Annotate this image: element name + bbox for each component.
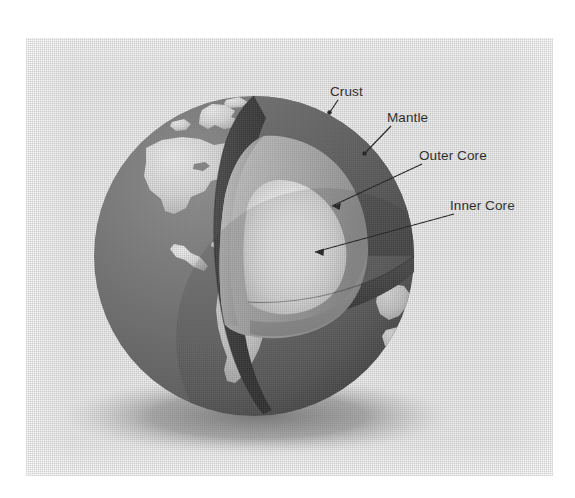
callout-label-mantle: Mantle (387, 111, 428, 125)
callout-label-outer-core: Outer Core (419, 149, 487, 163)
leader-mantle (362, 126, 391, 156)
callout-label-crust: Crust (330, 85, 363, 99)
callout-label-inner-core: Inner Core (450, 199, 515, 213)
figure-plate: Crust Mantle Outer Core Inner Core (26, 38, 553, 476)
leader-crust (327, 100, 338, 115)
earth-cutaway-illustration (26, 38, 553, 476)
figure-root: Crust Mantle Outer Core Inner Core (0, 0, 575, 498)
